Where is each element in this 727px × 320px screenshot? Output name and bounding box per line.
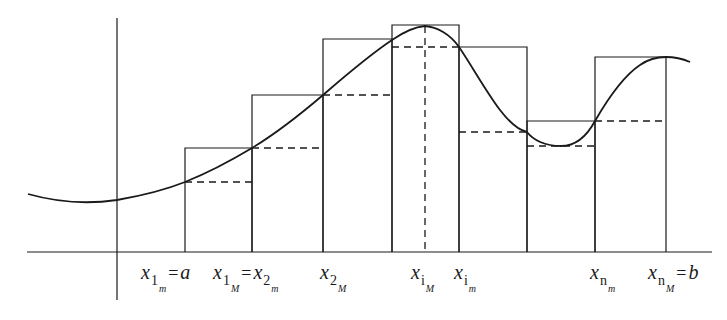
riemann-sum-diagram [0,0,727,320]
upper-rectangle [595,57,666,252]
upper-rectangle [323,39,392,252]
label-xnM: xnM=b [648,262,698,282]
upper-rectangle [185,148,252,252]
axes [27,18,712,300]
label-xnm: xnm [590,262,615,282]
label-x1m: x1m=a [141,262,190,282]
label-x2M: x2M [320,262,346,282]
label-xiM: xiM [411,262,434,282]
upper-rectangle [459,47,527,252]
function-curve [28,26,690,202]
label-x1M: x1M=x2m [213,262,279,282]
upper-rectangle [252,95,323,252]
label-xim: xim [454,262,476,282]
lower-dashed-lines [185,26,666,252]
